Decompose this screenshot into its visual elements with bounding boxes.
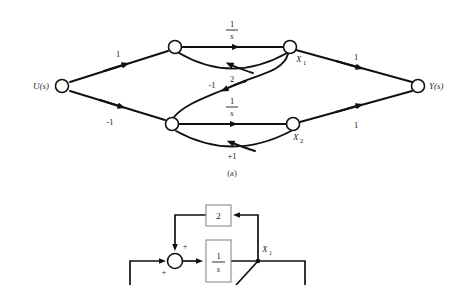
edge-gain-x1-n1: 2: [230, 74, 234, 84]
svg-text:X: X: [292, 132, 299, 142]
svg-text:2: 2: [216, 211, 221, 221]
edge-gain-u-n1: 1: [116, 49, 120, 59]
node-u: [56, 80, 69, 93]
edge-gain-x1-n2: -1: [208, 80, 215, 90]
edge-gain-x1-y: 1: [354, 52, 358, 62]
wire-x1-to-gain2: [236, 215, 258, 261]
svg-text:s: s: [230, 108, 234, 118]
block-gain-2: 2: [206, 205, 231, 226]
wire-gain2-to-summer: [175, 215, 206, 248]
edge-gain-x2-y: 1: [354, 120, 358, 130]
edge-x2-to-y: [300, 91, 412, 122]
node-x2: [287, 118, 300, 131]
svg-text:1: 1: [216, 251, 220, 261]
block-label-x1: X 1: [261, 244, 272, 256]
edge-gain-x2-n2: +1: [227, 151, 236, 161]
node-label-x1: X 1: [295, 54, 306, 66]
node-n2: [166, 118, 179, 131]
svg-text:X: X: [261, 244, 268, 254]
branch-point-x1: [256, 259, 261, 264]
svg-text:1: 1: [230, 96, 234, 106]
svg-text:+: +: [162, 268, 167, 277]
node-x1: [284, 41, 297, 54]
node-n1: [169, 41, 182, 54]
node-label-u: U(s): [33, 81, 49, 91]
figure-container: U(s) X 1 X 2 Y(s) 1 -1 1 s 2 1: [0, 0, 464, 285]
wire-feedback-into-summer: [130, 261, 163, 285]
wire-integrator-to-x1: [231, 261, 305, 285]
svg-text:2: 2: [300, 137, 303, 144]
panel-a-signal-flow-graph: U(s) X 1 X 2 Y(s) 1 -1 1 s 2 1: [33, 19, 444, 178]
edge-x2-to-n2-feedback: [176, 131, 291, 151]
edge-u-to-n2: [70, 91, 165, 120]
node-y: [412, 80, 425, 93]
svg-text:X: X: [295, 54, 302, 64]
svg-text:1: 1: [269, 249, 272, 256]
edge-gain-u-n2: -1: [106, 117, 113, 127]
caption-a: (a): [227, 168, 237, 178]
node-label-y: Y(s): [429, 81, 444, 91]
svg-text:1: 1: [303, 59, 306, 66]
node-label-x2: X 2: [292, 132, 303, 144]
edge-gain-n1-x1-fraction: 1 s: [226, 19, 238, 41]
svg-text:1: 1: [230, 19, 234, 29]
wire-x1-diagonal-branch: [236, 261, 258, 285]
svg-text:+: +: [183, 242, 188, 251]
signal-flow-and-block-diagram: U(s) X 1 X 2 Y(s) 1 -1 1 s 2 1: [0, 0, 464, 285]
panel-b-block-diagram: 2 1 s + + X 1: [130, 205, 305, 285]
edge-gain-n2-x2-fraction: 1 s: [226, 96, 238, 118]
block-integrator: 1 s: [206, 240, 231, 282]
svg-text:s: s: [230, 31, 234, 41]
